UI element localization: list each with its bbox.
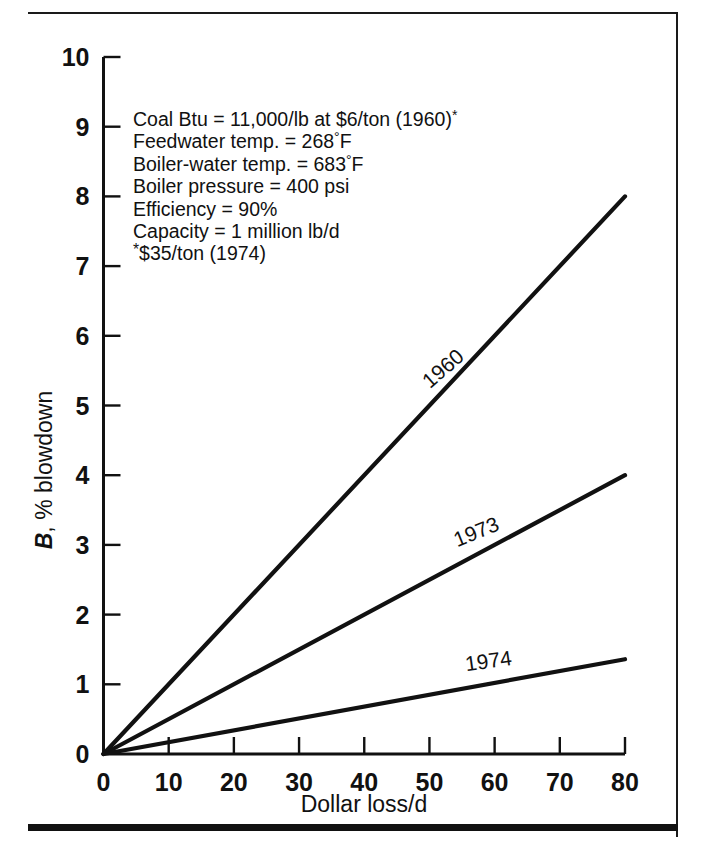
y-tick-label-3: 3 xyxy=(76,531,90,559)
y-tick-label-5: 5 xyxy=(76,392,90,420)
data-series xyxy=(104,196,626,754)
series-line-1960 xyxy=(104,196,626,754)
y-tick-label-1: 1 xyxy=(76,670,90,698)
x-tick-label-0: 0 xyxy=(97,768,111,796)
annotation-line-boiler-water-temp: Boiler-water temp. = 683°F xyxy=(133,153,463,175)
y-tick-label-9: 9 xyxy=(76,113,90,141)
series-label-1974: 1974 xyxy=(464,646,514,675)
x-tick-label-60: 60 xyxy=(481,768,509,796)
series-line-1973 xyxy=(104,475,626,754)
y-axis-ticks xyxy=(104,57,121,684)
x-tick-label-80: 80 xyxy=(611,768,639,796)
series-label-1960: 1960 xyxy=(418,344,468,392)
annotation-line-coal: Coal Btu = 11,000/lb at $6/ton (1960)* xyxy=(133,108,463,130)
series-inline-labels: 196019731974 xyxy=(418,344,514,675)
y-axis-title: B, % blowdown xyxy=(31,391,57,550)
y-tick-label-0: 0 xyxy=(76,740,90,768)
footnote-marker-inline: * xyxy=(452,107,457,123)
chart-annotation-block: Coal Btu = 11,000/lb at $6/ton (1960)* F… xyxy=(133,108,463,265)
annotation-line-boiler-pressure: Boiler pressure = 400 psi xyxy=(133,175,463,197)
y-axis-tick-labels: 012345678910 xyxy=(62,43,90,768)
y-tick-label-6: 6 xyxy=(76,322,90,350)
annotation-line-feedwater-temp: Feedwater temp. = 268°F xyxy=(133,130,463,152)
x-tick-label-70: 70 xyxy=(546,768,574,796)
x-axis-ticks xyxy=(169,737,625,754)
annotation-footnote: *$35/ton (1974) xyxy=(133,242,463,264)
y-tick-label-8: 8 xyxy=(76,182,90,210)
annotation-line-efficiency: Efficiency = 90% xyxy=(133,198,463,220)
annotation-line-capacity: Capacity = 1 million lb/d xyxy=(133,220,463,242)
x-axis-title: Dollar loss/d xyxy=(301,791,428,817)
y-tick-label-7: 7 xyxy=(76,252,90,280)
x-tick-label-20: 20 xyxy=(220,768,248,796)
x-tick-label-10: 10 xyxy=(155,768,183,796)
y-tick-label-10: 10 xyxy=(62,43,90,71)
y-tick-label-2: 2 xyxy=(76,601,90,629)
y-tick-label-4: 4 xyxy=(76,461,90,489)
